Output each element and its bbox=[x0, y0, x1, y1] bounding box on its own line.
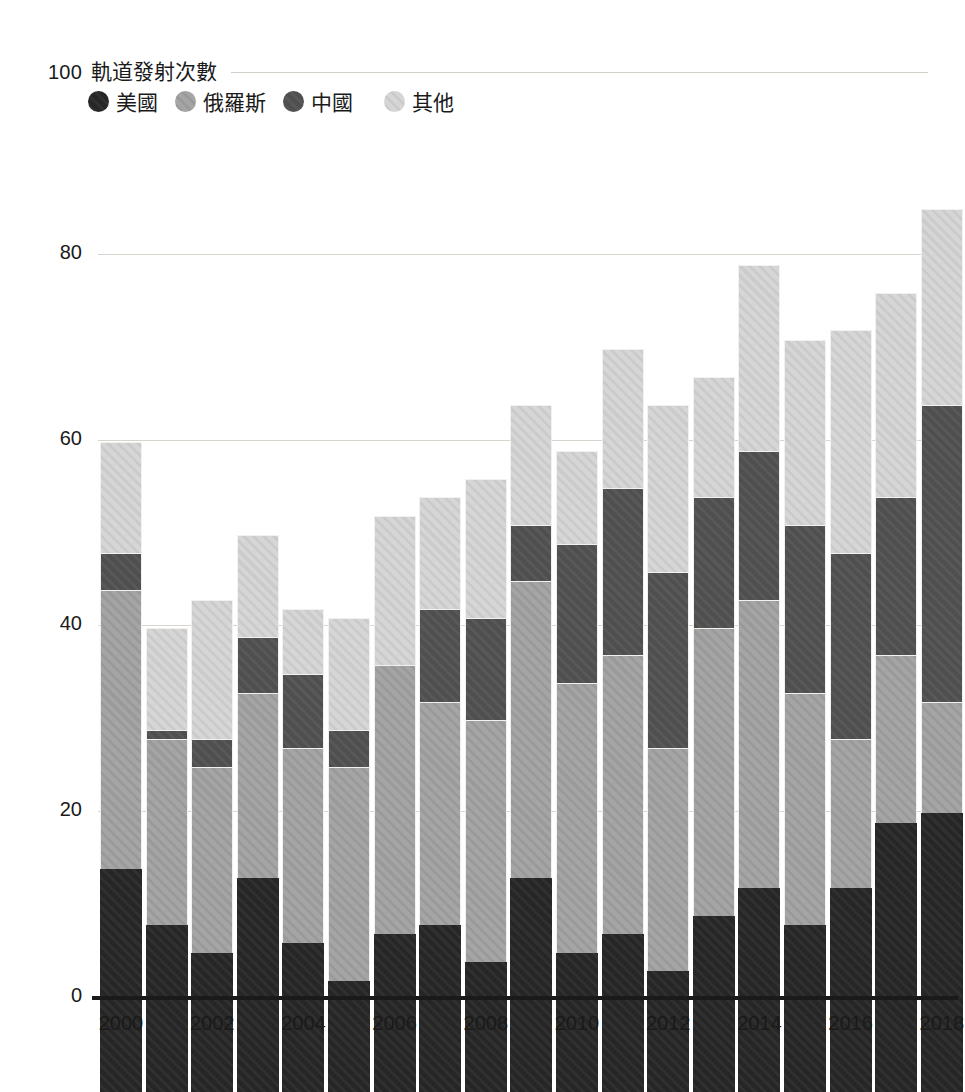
bar-2000[interactable] bbox=[100, 95, 142, 1092]
bar-segment-2016-其他 bbox=[830, 330, 872, 553]
bar-segment-2006-俄羅斯 bbox=[374, 665, 416, 934]
bar-segment-2008-其他 bbox=[465, 479, 507, 618]
bar-segment-2016-俄羅斯 bbox=[830, 739, 872, 888]
bar-segment-2012-俄羅斯 bbox=[647, 748, 689, 971]
bar-segment-2010-其他 bbox=[556, 451, 598, 544]
bar-segment-2014-美國 bbox=[738, 888, 780, 1092]
x-tick-label-2008: 2008 bbox=[451, 1012, 521, 1035]
bar-segment-2003-中國 bbox=[237, 637, 279, 693]
bar-2004[interactable] bbox=[282, 95, 324, 1092]
bar-segment-2012-中國 bbox=[647, 572, 689, 749]
bar-segment-2002-俄羅斯 bbox=[191, 767, 233, 953]
bar-segment-2000-美國 bbox=[100, 869, 142, 1092]
x-tick-label-2016: 2016 bbox=[816, 1012, 886, 1035]
x-axis-line bbox=[92, 996, 958, 1000]
bar-segment-2007-中國 bbox=[419, 609, 461, 702]
bar-segment-2011-其他 bbox=[602, 349, 644, 488]
bar-segment-2000-其他 bbox=[100, 442, 142, 553]
bar-segment-2017-其他 bbox=[875, 293, 917, 497]
bar-segment-2008-中國 bbox=[465, 618, 507, 720]
bar-segment-2003-俄羅斯 bbox=[237, 693, 279, 879]
bar-segment-2005-其他 bbox=[328, 618, 370, 729]
bar-segment-2007-俄羅斯 bbox=[419, 702, 461, 925]
bar-segment-2018-其他 bbox=[921, 209, 963, 404]
bar-2009[interactable] bbox=[510, 95, 552, 1092]
bar-segment-2015-中國 bbox=[784, 525, 826, 692]
bar-segment-2014-俄羅斯 bbox=[738, 600, 780, 888]
x-tick-label-2002: 2002 bbox=[177, 1012, 247, 1035]
bar-segment-2013-中國 bbox=[693, 497, 735, 627]
bar-segment-2013-美國 bbox=[693, 916, 735, 1092]
x-axis-tick-labels: 2000200220042006200820102012201420162018 bbox=[0, 1008, 965, 1048]
x-tick-label-2004: 2004 bbox=[268, 1012, 338, 1035]
bar-segment-2015-其他 bbox=[784, 340, 826, 526]
bar-2007[interactable] bbox=[419, 95, 461, 1092]
bar-segment-2006-其他 bbox=[374, 516, 416, 665]
bar-2010[interactable] bbox=[556, 95, 598, 1092]
bar-segment-2002-中國 bbox=[191, 739, 233, 767]
bar-segment-2017-美國 bbox=[875, 823, 917, 1092]
bar-segment-2017-中國 bbox=[875, 497, 917, 655]
bar-segment-2017-俄羅斯 bbox=[875, 655, 917, 822]
bar-segment-2013-俄羅斯 bbox=[693, 628, 735, 916]
x-tick-label-2018: 2018 bbox=[907, 1012, 965, 1035]
bar-2006[interactable] bbox=[374, 95, 416, 1092]
x-tick-label-2000: 2000 bbox=[86, 1012, 156, 1035]
bar-segment-2010-俄羅斯 bbox=[556, 683, 598, 952]
x-tick-label-2010: 2010 bbox=[542, 1012, 612, 1035]
bar-2008[interactable] bbox=[465, 95, 507, 1092]
bar-2016[interactable] bbox=[830, 95, 872, 1092]
orbital-launch-chart: 100 軌道發射次數 美國俄羅斯中國其他 020406080 200020022… bbox=[0, 0, 965, 1092]
bar-segment-2001-中國 bbox=[146, 730, 188, 739]
bar-2012[interactable] bbox=[647, 95, 689, 1092]
bar-segment-2001-其他 bbox=[146, 628, 188, 730]
bar-segment-2003-美國 bbox=[237, 878, 279, 1092]
bar-segment-2004-其他 bbox=[282, 609, 324, 674]
bar-2013[interactable] bbox=[693, 95, 735, 1092]
bar-segment-2001-俄羅斯 bbox=[146, 739, 188, 925]
x-tick-label-2006: 2006 bbox=[360, 1012, 430, 1035]
bar-segment-2016-中國 bbox=[830, 553, 872, 739]
bar-segment-2003-其他 bbox=[237, 535, 279, 637]
bar-2001[interactable] bbox=[146, 95, 188, 1092]
bar-2002[interactable] bbox=[191, 95, 233, 1092]
bar-segment-2009-俄羅斯 bbox=[510, 581, 552, 878]
bar-segment-2018-美國 bbox=[921, 813, 963, 1092]
bar-2018[interactable] bbox=[921, 95, 963, 1092]
bar-segment-2009-中國 bbox=[510, 525, 552, 581]
bar-segment-2005-俄羅斯 bbox=[328, 767, 370, 981]
bar-2017[interactable] bbox=[875, 95, 917, 1092]
bar-segment-2008-俄羅斯 bbox=[465, 720, 507, 962]
bar-segment-2000-中國 bbox=[100, 553, 142, 590]
bar-segment-2005-中國 bbox=[328, 730, 370, 767]
bar-2005[interactable] bbox=[328, 95, 370, 1092]
plot-area: 020406080 200020022004200620082010201220… bbox=[0, 0, 965, 1092]
bar-segment-2010-中國 bbox=[556, 544, 598, 683]
bar-2003[interactable] bbox=[237, 95, 279, 1092]
bar-segment-2018-中國 bbox=[921, 405, 963, 702]
bar-2015[interactable] bbox=[784, 95, 826, 1092]
bar-segment-2013-其他 bbox=[693, 377, 735, 498]
bar-segment-2004-俄羅斯 bbox=[282, 748, 324, 943]
x-tick-label-2012: 2012 bbox=[633, 1012, 703, 1035]
bar-layer bbox=[0, 0, 965, 1092]
bar-2011[interactable] bbox=[602, 95, 644, 1092]
bar-segment-2009-美國 bbox=[510, 878, 552, 1092]
bar-segment-2011-中國 bbox=[602, 488, 644, 655]
bar-segment-2007-其他 bbox=[419, 497, 461, 608]
x-tick-label-2014: 2014 bbox=[724, 1012, 794, 1035]
bar-2014[interactable] bbox=[738, 95, 780, 1092]
bar-segment-2011-俄羅斯 bbox=[602, 655, 644, 934]
bar-segment-2014-中國 bbox=[738, 451, 780, 600]
bar-segment-2000-俄羅斯 bbox=[100, 590, 142, 869]
bar-segment-2009-其他 bbox=[510, 405, 552, 526]
bar-segment-2015-俄羅斯 bbox=[784, 693, 826, 925]
bar-segment-2018-俄羅斯 bbox=[921, 702, 963, 813]
bar-segment-2012-其他 bbox=[647, 405, 689, 572]
bar-segment-2016-美國 bbox=[830, 888, 872, 1092]
bar-segment-2004-中國 bbox=[282, 674, 324, 748]
bar-segment-2014-其他 bbox=[738, 265, 780, 451]
bar-segment-2002-其他 bbox=[191, 600, 233, 739]
